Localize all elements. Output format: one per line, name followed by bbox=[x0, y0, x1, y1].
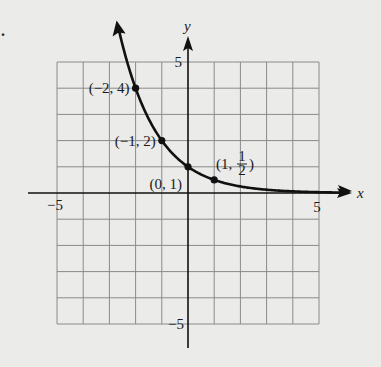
data-point bbox=[132, 85, 139, 92]
y-tick-label: 5 bbox=[175, 54, 183, 70]
point-label: 2 bbox=[238, 162, 246, 178]
curve bbox=[113, 21, 352, 196]
point-label: (−2, 4) bbox=[89, 80, 130, 97]
point-label: ) bbox=[249, 156, 254, 173]
point-label: (−1, 2) bbox=[115, 133, 156, 150]
y-axis-label: y bbox=[182, 18, 191, 34]
x-tick-label: 5 bbox=[313, 199, 321, 215]
x-tick-label: −5 bbox=[47, 197, 63, 213]
x-axis-label: x bbox=[356, 185, 364, 201]
labels: (−2, 4)(−1, 2)(0, 1)(1, 12)5−5−55xy bbox=[47, 18, 364, 332]
data-point bbox=[184, 163, 191, 170]
exponential-chart: (−2, 4)(−1, 2)(0, 1)(1, 12)5−5−55xy bbox=[0, 0, 381, 367]
y-tick-label: −5 bbox=[168, 316, 184, 332]
point-label: (0, 1) bbox=[150, 176, 183, 193]
data-point bbox=[158, 137, 165, 144]
stray-dot: . bbox=[1, 22, 5, 40]
point-label: (1, bbox=[216, 156, 232, 173]
data-point bbox=[211, 176, 218, 183]
